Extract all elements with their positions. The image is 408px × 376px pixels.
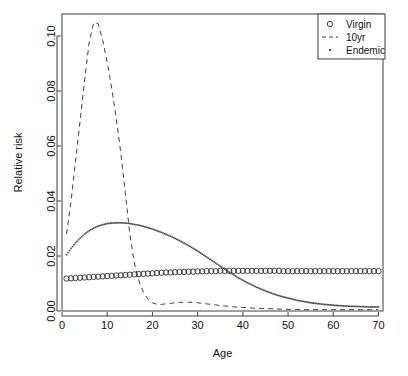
data-point [351, 306, 353, 308]
data-point [286, 297, 288, 299]
data-point [281, 296, 283, 298]
data-point [120, 222, 122, 224]
data-point [299, 300, 301, 302]
data-point [245, 281, 247, 283]
data-point [122, 222, 124, 224]
data-point [257, 287, 259, 289]
data-point [235, 275, 237, 277]
data-point [158, 231, 160, 233]
data-point [213, 261, 215, 263]
data-point [102, 224, 104, 226]
data-point [262, 289, 264, 291]
data-point [159, 231, 161, 233]
data-point [155, 229, 157, 231]
data-point [287, 297, 289, 299]
y-tick-label: 0.06 [45, 135, 57, 156]
data-point [162, 232, 164, 234]
data-point [322, 303, 324, 305]
data-point [138, 224, 140, 226]
data-point [143, 226, 145, 228]
data-point [144, 226, 146, 228]
data-point [278, 295, 280, 297]
data-point [372, 306, 374, 308]
data-point [223, 267, 225, 269]
data-point [269, 292, 271, 294]
chart-legend[interactable]: Virgin10yrEndemic [318, 14, 385, 59]
data-point [363, 306, 365, 308]
data-point [125, 222, 127, 224]
data-point [207, 257, 209, 259]
data-point [84, 233, 86, 235]
data-point [274, 293, 276, 295]
data-point [201, 253, 203, 255]
x-tick-label: 50 [282, 319, 294, 331]
data-point [336, 305, 338, 307]
data-point [216, 263, 218, 265]
data-point [79, 237, 81, 239]
data-point [266, 291, 268, 293]
data-point [180, 241, 182, 243]
data-point [219, 265, 221, 267]
data-point [206, 256, 208, 258]
data-point [370, 306, 372, 308]
data-point [271, 292, 273, 294]
data-point [360, 306, 362, 308]
chart-container: 0.000.020.040.060.080.10 010203040506070… [0, 0, 408, 376]
data-point [302, 301, 304, 303]
data-point [230, 272, 232, 274]
data-point [342, 305, 344, 307]
data-point [376, 306, 378, 308]
data-point [339, 305, 341, 307]
data-point [76, 240, 78, 242]
data-point [69, 250, 71, 252]
data-point [168, 235, 170, 237]
data-point [346, 305, 348, 307]
data-point [109, 222, 111, 224]
data-point [340, 305, 342, 307]
data-point [191, 247, 193, 249]
x-tick-label: 10 [101, 319, 113, 331]
data-point [250, 283, 252, 285]
data-point [333, 304, 335, 306]
data-point [290, 298, 292, 300]
data-point [349, 305, 351, 307]
data-point [149, 227, 151, 229]
data-point [331, 304, 333, 306]
data-point [280, 295, 282, 297]
x-tick-label: 20 [146, 319, 158, 331]
data-point [128, 223, 130, 225]
data-point [251, 284, 253, 286]
data-point [236, 276, 238, 278]
data-point [277, 294, 279, 296]
data-point [153, 229, 155, 231]
data-point [275, 294, 277, 296]
data-point [72, 246, 74, 248]
data-point [272, 293, 274, 295]
data-point [224, 268, 226, 270]
x-tick-label: 70 [372, 319, 384, 331]
data-point [85, 232, 87, 234]
data-point [209, 258, 211, 260]
data-point [140, 225, 142, 227]
data-point [105, 223, 107, 225]
x-axis-title: Age [213, 347, 233, 359]
data-point [232, 273, 234, 275]
data-point [296, 300, 298, 302]
data-point [283, 296, 285, 298]
data-point [334, 305, 336, 307]
data-point [70, 248, 72, 250]
data-point [358, 306, 360, 308]
data-point [369, 306, 371, 308]
data-point [325, 304, 327, 306]
data-point [186, 244, 188, 246]
data-point [307, 301, 309, 303]
data-point [293, 299, 295, 301]
data-point [229, 271, 231, 273]
data-point [167, 234, 169, 236]
data-point [253, 285, 255, 287]
data-point [99, 225, 101, 227]
y-tick-label: 0.04 [45, 190, 57, 211]
data-point [218, 264, 220, 266]
data-point [242, 279, 244, 281]
data-point [78, 239, 80, 241]
